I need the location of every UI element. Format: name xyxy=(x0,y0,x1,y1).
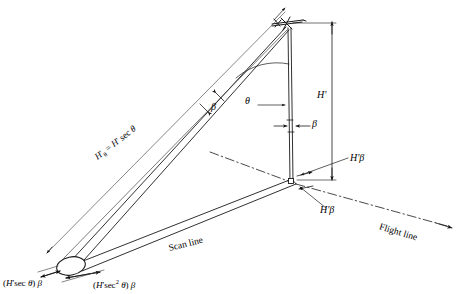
beam-envelope-outer xyxy=(47,12,285,253)
hbeta-upper-leader xyxy=(301,158,348,175)
cell-width-dimension xyxy=(41,271,60,277)
scanner-geometry-figure: H'θ = H' sec θ H' θ β β H'β H'β Scan lin… xyxy=(0,0,459,294)
ground-resolution-cell xyxy=(55,254,87,278)
scan-line-band xyxy=(78,179,296,271)
cell-width-label: (H'sec θ) β xyxy=(3,279,42,288)
nadir-marker xyxy=(289,179,294,184)
angle-beta-slant-label: β xyxy=(211,102,216,112)
vertical-axis xyxy=(288,28,293,181)
flight-line-arrowhead xyxy=(436,223,452,228)
angle-theta-arc xyxy=(236,63,289,78)
angle-beta-vertical-label: β xyxy=(312,119,317,129)
triangle-left-leg xyxy=(64,30,287,258)
diagram-canvas xyxy=(0,0,459,294)
ground-cell-lower-label: H'β xyxy=(320,205,334,215)
height-dimension-leaders xyxy=(293,23,336,180)
beam-envelope-outer-arrow xyxy=(47,247,52,253)
height-label: H' xyxy=(317,90,326,100)
aircraft-icon xyxy=(272,17,306,30)
cell-length-label: (H'sec2 θ) β xyxy=(93,279,135,290)
angle-theta-label: θ xyxy=(245,96,250,106)
ground-cell-upper-label: H'β xyxy=(350,153,364,163)
